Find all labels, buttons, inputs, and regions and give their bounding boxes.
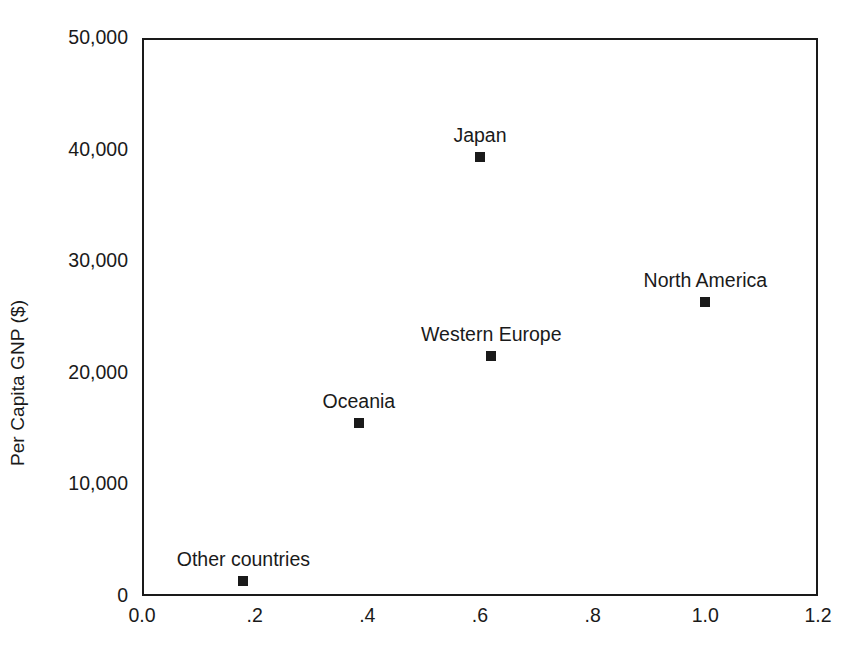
x-tick-label: .8 xyxy=(548,606,638,626)
data-point-marker xyxy=(475,152,485,162)
data-point-marker xyxy=(486,351,496,361)
data-point-marker xyxy=(354,418,364,428)
x-tick-label: .6 xyxy=(435,606,525,626)
x-tick-label: 1.0 xyxy=(660,606,750,626)
data-point-label: Japan xyxy=(453,126,506,146)
x-tick-label: .2 xyxy=(210,606,300,626)
data-point-marker xyxy=(700,297,710,307)
data-point-label: Western Europe xyxy=(421,325,562,345)
x-tick-label: 1.2 xyxy=(773,606,862,626)
data-point-label: Oceania xyxy=(323,392,396,412)
scatter-chart-figure: 010,00020,00030,00040,00050,000 0.0.2.4.… xyxy=(0,0,862,659)
data-point-marker xyxy=(238,576,248,586)
data-point-label: Other countries xyxy=(177,550,310,570)
x-tick-label: .4 xyxy=(322,606,412,626)
data-point-label: North America xyxy=(644,271,768,291)
y-axis-title: Per Capita GNP ($) xyxy=(7,263,29,503)
x-tick-label: 0.0 xyxy=(97,606,187,626)
